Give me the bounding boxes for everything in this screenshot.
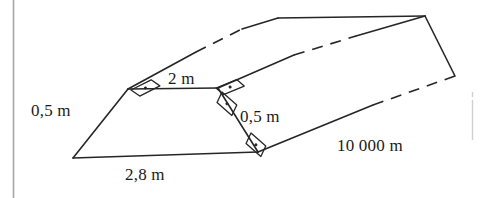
far-trapezoid-face [278,16,455,76]
bottom-right-long-edge-hidden [373,76,455,105]
right-angle-top-right-upper [215,78,245,96]
far-face-right-slant-edge [425,16,455,76]
right-angle-top-right-upper-dot [228,85,232,89]
label-length: 10 000 m [337,137,403,154]
top-left-rim-edge-back [242,18,278,29]
figure-container: 2 m 0,5 m 0,5 m 2,8 m 10 000 m [0,0,485,198]
label-top-width: 2 m [168,70,195,87]
near-face-left-slant-edge [73,89,128,158]
prism-diagram-svg [0,0,485,198]
near-face-top-edge [128,88,218,89]
label-right-slant-height: 0,5 m [240,108,280,125]
right-angle-top-left [130,78,161,98]
top-right-rim-edge-back [356,16,425,36]
far-face-top-edge [278,16,425,18]
label-bottom-width: 2,8 m [125,166,165,183]
label-left-slant-height: 0,5 m [31,102,71,119]
top-left-rim-edge-hidden [196,29,242,52]
near-face-bottom-edge [73,152,258,158]
top-right-rim-edge-hidden [294,36,356,55]
